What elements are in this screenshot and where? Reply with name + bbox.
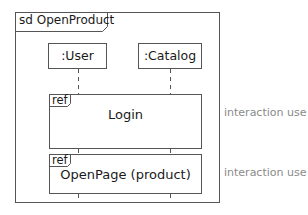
sd-frame-title: sd OpenProduct (19, 14, 114, 26)
annotation-openpage-interaction-use: interaction use (224, 167, 306, 178)
ref-openpage-name: OpenPage (product) (49, 168, 202, 181)
ref-login-name: Login (49, 108, 202, 121)
annotation-login-interaction-use: interaction use (224, 107, 306, 118)
lifeline-label-catalog: :Catalog (138, 50, 202, 63)
ref-openpage-operator: ref (52, 155, 68, 167)
ref-login-operator: ref (52, 95, 68, 107)
lifeline-label-user: :User (48, 50, 107, 63)
